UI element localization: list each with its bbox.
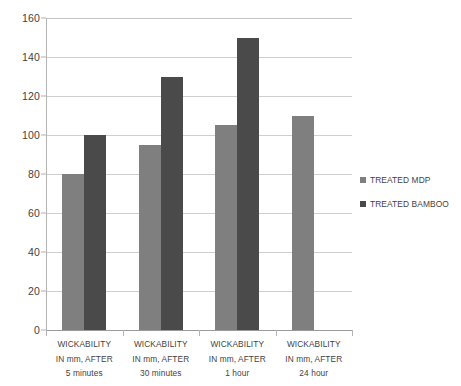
y-tick-label: 60 bbox=[28, 207, 40, 219]
y-tick-mark bbox=[41, 252, 46, 253]
category-separator bbox=[352, 330, 353, 336]
bar bbox=[215, 125, 237, 330]
legend-item[interactable]: TREATED MDP bbox=[360, 172, 461, 188]
x-category-label-line: 5 minutes bbox=[46, 366, 123, 381]
x-category-label-line: WICKABILITY bbox=[123, 337, 200, 352]
category-separator bbox=[199, 330, 200, 336]
y-tick-mark bbox=[41, 330, 46, 331]
y-tick-mark bbox=[41, 57, 46, 58]
y-tick-mark bbox=[41, 18, 46, 19]
y-tick-mark bbox=[41, 174, 46, 175]
bar bbox=[237, 38, 259, 331]
category-separator bbox=[46, 330, 47, 336]
x-axis-labels: WICKABILITYIN mm, AFTER5 minutesWICKABIL… bbox=[46, 337, 352, 386]
bar bbox=[84, 135, 106, 330]
y-tick-label: 80 bbox=[28, 168, 40, 180]
y-tick-mark bbox=[41, 213, 46, 214]
legend: TREATED MDPTREATED BAMBOO bbox=[360, 172, 461, 220]
legend-item[interactable]: TREATED BAMBOO bbox=[360, 196, 461, 212]
x-category-label-line: IN mm, AFTER bbox=[123, 352, 200, 367]
category-separator bbox=[123, 330, 124, 336]
x-category-label: WICKABILITYIN mm, AFTER5 minutes bbox=[46, 337, 123, 381]
bars-layer bbox=[46, 18, 352, 330]
y-tick-label: 0 bbox=[34, 324, 40, 336]
x-category-label-line: 30 minutes bbox=[123, 366, 200, 381]
y-axis: 020406080100120140160 bbox=[0, 18, 40, 330]
legend-swatch-icon bbox=[360, 177, 366, 183]
y-tick-label: 140 bbox=[22, 51, 40, 63]
x-category-label-line: WICKABILITY bbox=[199, 337, 276, 352]
y-tick-label: 100 bbox=[22, 129, 40, 141]
y-tick-mark bbox=[41, 291, 46, 292]
legend-swatch-icon bbox=[360, 201, 366, 207]
x-category-label-line: IN mm, AFTER bbox=[276, 352, 353, 367]
bar bbox=[139, 145, 161, 330]
bar bbox=[292, 116, 314, 331]
y-tick-mark bbox=[41, 135, 46, 136]
y-tick-mark bbox=[41, 96, 46, 97]
x-category-label-line: 24 hour bbox=[276, 366, 353, 381]
y-tick-label: 160 bbox=[22, 12, 40, 24]
x-category-label-line: WICKABILITY bbox=[276, 337, 353, 352]
x-category-label-line: WICKABILITY bbox=[46, 337, 123, 352]
legend-label: TREATED MDP bbox=[370, 175, 431, 185]
x-category-label-line: IN mm, AFTER bbox=[46, 352, 123, 367]
legend-label: TREATED BAMBOO bbox=[370, 199, 449, 209]
bar-chart: 020406080100120140160 WICKABILITYIN mm, … bbox=[0, 0, 461, 386]
category-separator bbox=[276, 330, 277, 336]
x-category-label: WICKABILITYIN mm, AFTER1 hour bbox=[199, 337, 276, 381]
x-category-label: WICKABILITYIN mm, AFTER30 minutes bbox=[123, 337, 200, 381]
x-category-label-line: 1 hour bbox=[199, 366, 276, 381]
y-tick-label: 120 bbox=[22, 90, 40, 102]
y-tick-label: 40 bbox=[28, 246, 40, 258]
x-category-label-line: IN mm, AFTER bbox=[199, 352, 276, 367]
bar bbox=[62, 174, 84, 330]
x-category-label: WICKABILITYIN mm, AFTER24 hour bbox=[276, 337, 353, 381]
y-tick-label: 20 bbox=[28, 285, 40, 297]
bar bbox=[161, 77, 183, 331]
